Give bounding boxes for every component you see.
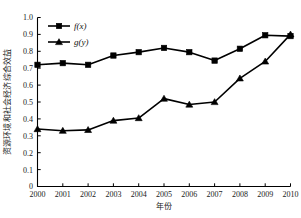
data-point xyxy=(187,49,192,54)
y-tick-label: 0.9 xyxy=(23,30,33,39)
data-point xyxy=(212,58,217,63)
data-point xyxy=(111,53,116,58)
data-point xyxy=(35,62,40,67)
chart-canvas: 00.10.20.30.40.50.60.70.80.91.0 20002001… xyxy=(0,0,301,218)
x-tick-label: 2002 xyxy=(80,190,96,199)
y-axis-title: 资源环境和社会经济综合效益 xyxy=(2,49,12,156)
y-tick-label: 0.5 xyxy=(23,98,33,107)
x-tick-label: 2000 xyxy=(30,190,46,199)
data-point xyxy=(136,49,141,54)
legend-marker xyxy=(56,23,61,28)
x-tick-label: 2003 xyxy=(105,190,121,199)
y-tick-label: 0.3 xyxy=(23,132,33,141)
x-tick-label: 2007 xyxy=(207,190,223,199)
x-tick-label: 2006 xyxy=(181,190,197,199)
x-tick-label: 2005 xyxy=(156,190,172,199)
x-tick-label: 2010 xyxy=(283,190,299,199)
y-tick-label: 0.4 xyxy=(23,115,33,124)
data-point xyxy=(161,45,166,50)
y-tick-label: 0.2 xyxy=(23,149,33,158)
y-tick-label: 0.1 xyxy=(23,166,33,175)
x-tick-label: 2009 xyxy=(257,190,273,199)
x-axis-tick-labels: 2000200120022003200420052006200720082009… xyxy=(30,190,299,199)
data-point xyxy=(237,46,242,51)
x-tick-label: 2008 xyxy=(232,190,248,199)
x-tick-label: 2001 xyxy=(55,190,71,199)
legend-label: g(y) xyxy=(74,37,89,47)
y-tick-label: 0.8 xyxy=(23,47,33,56)
y-tick-label: 0.7 xyxy=(23,64,33,73)
legend-label: f(x) xyxy=(74,21,87,31)
line-chart: 00.10.20.30.40.50.60.70.80.91.0 20002001… xyxy=(0,0,301,218)
y-tick-label: 0.6 xyxy=(23,81,33,90)
data-point xyxy=(60,60,65,65)
x-axis-title: 年份 xyxy=(156,201,172,211)
x-tick-label: 2004 xyxy=(131,190,147,199)
data-point xyxy=(263,33,268,38)
data-point xyxy=(85,62,90,67)
y-tick-label: 1.0 xyxy=(23,13,33,22)
